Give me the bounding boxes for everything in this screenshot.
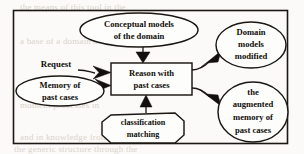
edge-label-request: Request [41, 59, 71, 69]
node-conceptual-models[interactable]: Conceptual models of the domain [80, 13, 198, 47]
arrow-classification-to-reason [140, 95, 152, 113]
node-domain-models-modified-line2: models [238, 39, 264, 49]
node-reason-with-past-cases-line2: past cases [133, 80, 170, 90]
node-classification-matching-line2: matching [127, 130, 159, 139]
node-classification-matching-line1: classification [121, 118, 166, 127]
diagram-svg: Conceptual models of the domain Domain m… [0, 0, 304, 154]
node-augmented-memory-line2: augmented [233, 99, 274, 109]
node-reason-with-past-cases-line1: Reason with [129, 68, 174, 78]
node-domain-models-modified-line3: modified [235, 51, 268, 61]
arrow-conceptual-to-reason [136, 46, 150, 63]
arrow-reason-to-augmented-memory [192, 88, 221, 106]
node-classification-matching[interactable]: classification matching [102, 113, 184, 143]
node-conceptual-models-line1: Conceptual models [104, 19, 175, 29]
node-domain-models-modified-line1: Domain [236, 27, 265, 37]
node-memory-of-past-cases-line1: Memory of [40, 80, 81, 90]
arrow-reason-to-domain-models [192, 51, 221, 70]
node-augmented-memory-line1: the [247, 87, 259, 97]
node-memory-of-past-cases[interactable]: Memory of past cases [16, 76, 104, 106]
arrow-request-to-reason [78, 66, 111, 79]
diagram-canvas: the means of this tool in the a base of … [0, 0, 304, 154]
node-augmented-memory-line4: past cases [235, 125, 272, 135]
node-reason-with-past-cases[interactable]: Reason with past cases [111, 63, 192, 95]
node-conceptual-models-line2: of the domain [114, 31, 165, 41]
node-augmented-memory-line3: memory of [233, 112, 273, 122]
node-domain-models-modified[interactable]: Domain models modified [216, 22, 286, 68]
node-memory-of-past-cases-line2: past cases [42, 92, 79, 102]
node-augmented-memory[interactable]: the augmented memory of past cases [218, 82, 288, 142]
